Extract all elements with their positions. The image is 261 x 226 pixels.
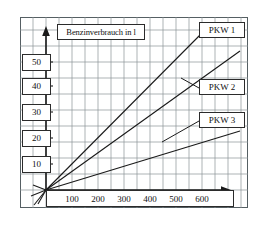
- legend-label-pkw-3: PKW 3: [199, 112, 245, 128]
- legend-label-pkw-1: PKW 1: [199, 22, 245, 38]
- x-axis-label-500: 500: [163, 192, 189, 206]
- legend-label-pkw-2: PKW 2: [199, 79, 245, 95]
- series-tail-marks: [31, 185, 46, 205]
- y-axis-label-10: 10: [22, 156, 51, 173]
- x-axis-label-strip: 100 200 300 400 500 600: [46, 190, 234, 207]
- chart-title: Benzinverbrauch in l: [57, 24, 145, 40]
- x-axis-label-100: 100: [59, 192, 85, 206]
- y-axis-arrowhead: [42, 26, 50, 36]
- y-axis-label-20: 20: [22, 130, 51, 147]
- legend-leader-pkw-3: [162, 121, 199, 142]
- y-axis-label-40: 40: [22, 78, 51, 95]
- chart-screenshot: Benzinverbrauch in l 50 40 30 20 10 100 …: [0, 0, 261, 226]
- x-axis-label-200: 200: [85, 192, 111, 206]
- y-axis-label-30: 30: [22, 104, 51, 121]
- x-axis-label-400: 400: [137, 192, 163, 206]
- x-axis-label-600: 600: [189, 192, 215, 206]
- y-axis-label-50: 50: [22, 54, 51, 71]
- x-axis-label-300: 300: [111, 192, 137, 206]
